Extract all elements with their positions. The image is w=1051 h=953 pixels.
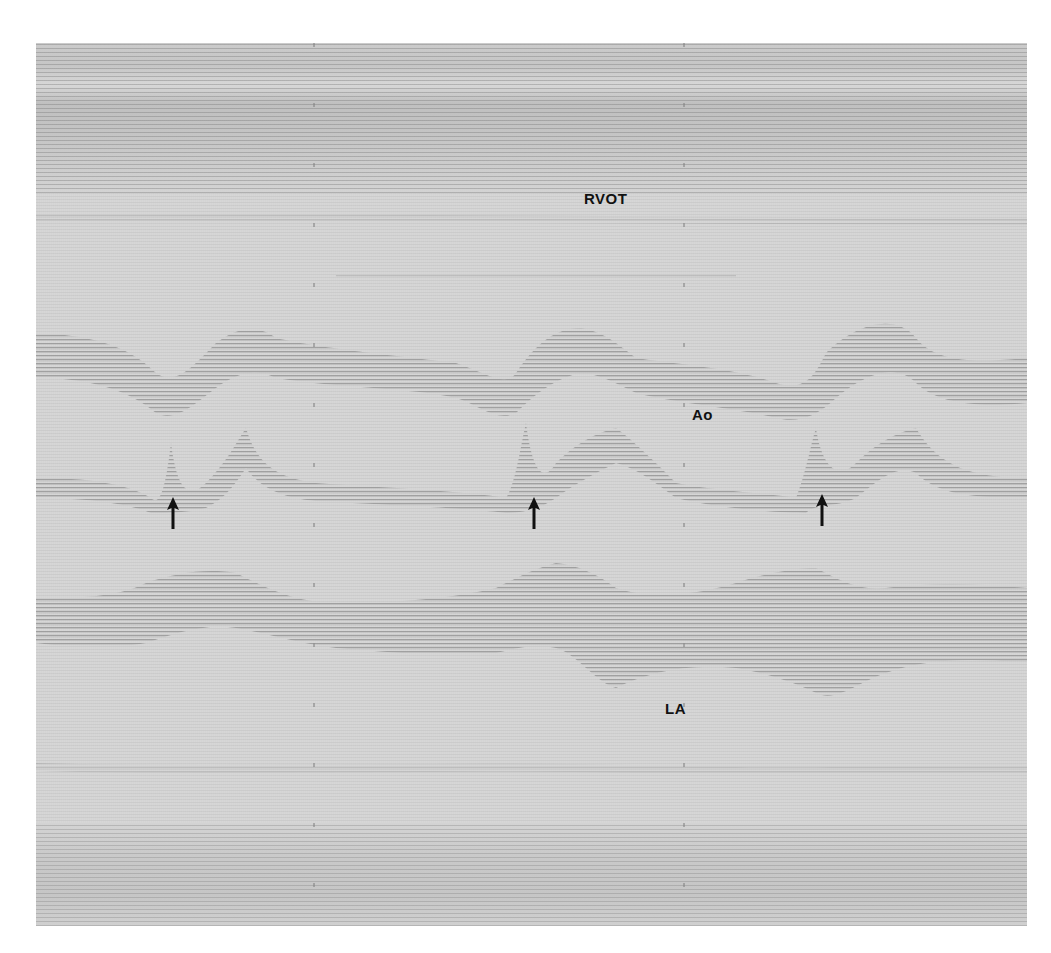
arrow-up-icon (528, 497, 540, 529)
anterior-aortic-wall (36, 324, 1027, 420)
label-ao: Ao (692, 406, 713, 423)
label-rvot: RVOT (584, 190, 627, 207)
echocardiogram-image (36, 43, 1027, 926)
left-atrial-wall (36, 563, 1027, 696)
rvot-faint-echoes (36, 213, 1027, 279)
arrow-up-icon (816, 494, 828, 526)
arrow-up-icon (167, 497, 179, 529)
la-faint-echoes (36, 763, 1027, 775)
echo-traces (36, 43, 1027, 926)
label-la: LA (665, 700, 686, 717)
